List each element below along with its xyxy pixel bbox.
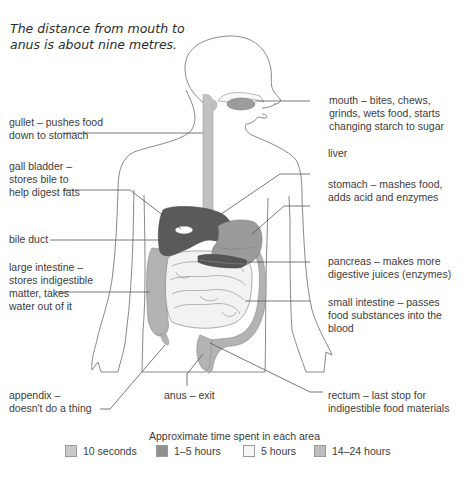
legend-swatch (156, 445, 168, 457)
label-appendix: appendix – doesn't do a thing (9, 389, 92, 415)
legend-title: Approximate time spent in each area (0, 430, 469, 442)
legend-swatch (65, 445, 77, 457)
label-large-intestine: large intestine – stores indigestible ma… (9, 261, 93, 313)
legend-item-14-24-hours: 14–24 hours (314, 445, 390, 457)
legend-item-10-seconds: 10 seconds (65, 445, 137, 457)
appendix (160, 334, 169, 345)
legend: 10 seconds 1–5 hours 5 hours 14–24 hours (0, 445, 469, 461)
leader-rectum (210, 343, 323, 392)
legend-swatch (243, 445, 255, 457)
label-gall-bladder: gall bladder – stores bile to help diges… (9, 160, 80, 199)
label-bile-duct: bile duct (9, 233, 48, 246)
gall-bladder (175, 226, 193, 234)
label-stomach: stomach – mashes food, adds acid and enz… (328, 178, 442, 204)
legend-item-5-hours: 5 hours (243, 445, 296, 457)
label-mouth: mouth – bites, chews, grinds, wets food,… (329, 94, 444, 133)
rectum (197, 335, 212, 370)
label-gullet: gullet – pushes food down to stomach (9, 116, 103, 142)
legend-swatch (314, 445, 326, 457)
label-rectum: rectum – last stop for indigestible food… (328, 389, 449, 415)
tongue (227, 98, 255, 110)
label-anus: anus – exit (164, 389, 215, 402)
label-small-intestine: small intestine – passes food substances… (328, 296, 442, 335)
label-liver: liver (328, 147, 347, 160)
legend-item-1-5-hours: 1–5 hours (156, 445, 221, 457)
label-pancreas: pancreas – makes more digestive juices (… (328, 255, 451, 281)
leader-appendix (100, 345, 165, 409)
